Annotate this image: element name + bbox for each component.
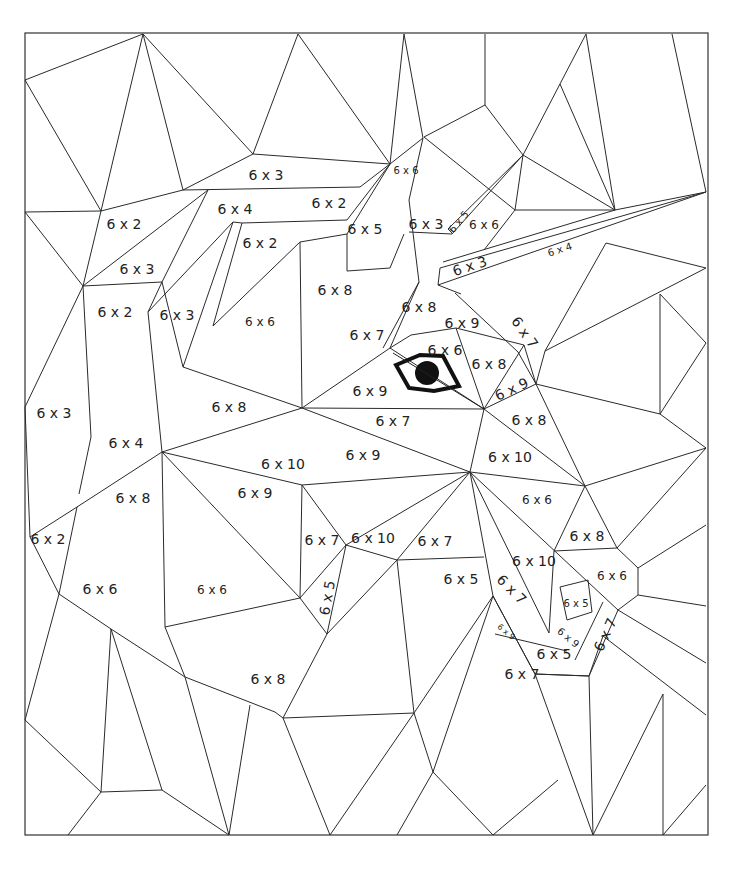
region-label: 6 x 2 <box>107 216 142 232</box>
region-label: 6 x 7 <box>418 533 453 549</box>
region-label: 6 x 6 <box>394 165 419 176</box>
color-by-number-sheet: 6 x 36 x 26 x 46 x 26 x 66 x 56 x 36 x 5… <box>0 0 731 874</box>
region-label: 6 x 7 <box>505 666 540 682</box>
region-label: 6 x 8 <box>251 671 286 687</box>
region-label: 6 x 9 <box>353 383 388 399</box>
region-label: 6 x 5 <box>537 646 572 662</box>
region-label: 6 x 3 <box>37 405 72 421</box>
region-label: 6 x 10 <box>488 449 532 465</box>
region-label: 6 x 2 <box>31 531 66 547</box>
region-label: 6 x 5 <box>444 571 479 587</box>
region-label: 6 x 9 <box>346 447 381 463</box>
region-label: 6 x 3 <box>160 307 195 323</box>
region-label: 6 x 8 <box>116 490 151 506</box>
region-label: 6 x 10 <box>512 553 556 569</box>
region-label: 6 x 6 <box>197 583 227 597</box>
region-label: 6 x 2 <box>98 304 133 320</box>
region-label: 6 x 9 <box>445 315 480 331</box>
region-label: 6 x 2 <box>312 195 347 211</box>
region-label: 6 x 4 <box>218 201 253 217</box>
region-label: 6 x 5 <box>564 598 589 609</box>
region-label: 6 x 5 <box>348 221 383 237</box>
region-label: 6 x 2 <box>243 235 278 251</box>
region-label: 6 x 3 <box>409 216 444 232</box>
region-label: 6 x 7 <box>350 327 385 343</box>
region-label: 6 x 8 <box>318 282 353 298</box>
region-label: 6 x 4 <box>109 435 144 451</box>
region-label: 6 x 6 <box>522 493 552 507</box>
region-label: 6 x 10 <box>351 530 395 546</box>
region-label: 6 x 6 <box>428 342 463 358</box>
region-label: 6 x 10 <box>261 456 305 472</box>
region-label: 6 x 3 <box>120 261 155 277</box>
region-label: 6 x 8 <box>512 412 547 428</box>
region-label: 6 x 8 <box>472 356 507 372</box>
region-label: 6 x 6 <box>597 569 627 583</box>
region-label: 6 x 7 <box>376 413 411 429</box>
region-label: 6 x 8 <box>212 399 247 415</box>
region-label: 6 x 6 <box>469 218 499 232</box>
region-label: 6 x 7 <box>305 532 340 548</box>
region-label: 6 x 8 <box>402 299 437 315</box>
region-label: 6 x 8 <box>570 528 605 544</box>
eye-pupil-icon <box>415 361 439 385</box>
region-label: 6 x 6 <box>245 315 275 329</box>
region-label: 6 x 6 <box>83 581 118 597</box>
region-label: 6 x 9 <box>238 485 273 501</box>
region-label: 6 x 3 <box>249 167 284 183</box>
